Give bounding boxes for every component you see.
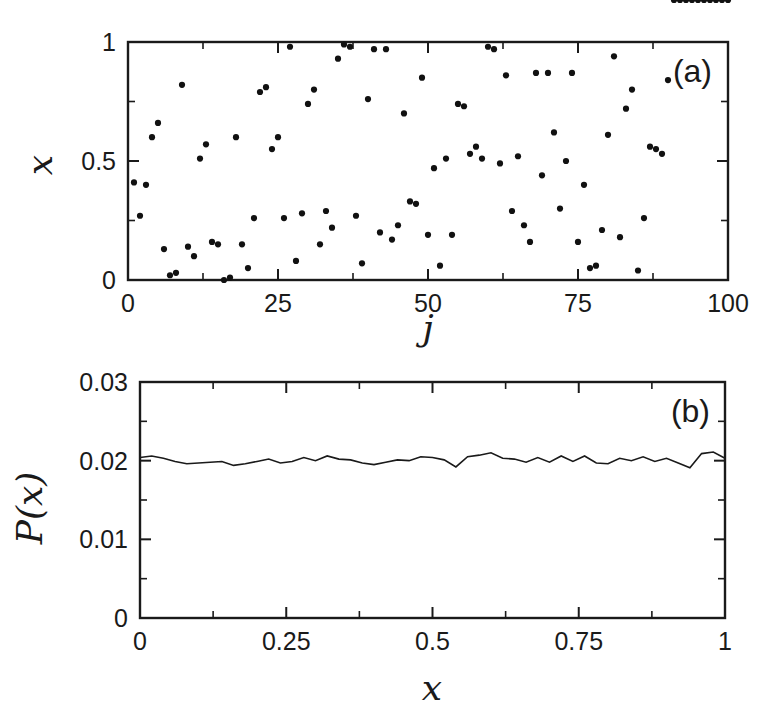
scatter-point (545, 70, 551, 76)
scatter-point (719, 0, 725, 3)
scatter-point (287, 44, 293, 50)
scatter-point (701, 0, 707, 3)
panel-b-xtick-label: 0 (133, 627, 147, 655)
scatter-point (713, 0, 719, 3)
panel-a-xtick-label: 25 (264, 289, 292, 317)
panel-a-label: (a) (673, 53, 712, 89)
scatter-point (227, 275, 233, 281)
scatter-point (323, 208, 329, 214)
panel-b: 00.250.50.75100.010.020.03 x P(x) (b) (0, 360, 780, 714)
scatter-point (173, 270, 179, 276)
scatter-point (521, 222, 527, 228)
scatter-point (137, 213, 143, 219)
panel-a-plot-area (128, 0, 731, 283)
scatter-point (605, 132, 611, 138)
scatter-point (251, 215, 257, 221)
scatter-point (515, 153, 521, 159)
panel-b-ytick-label: 0.03 (79, 368, 128, 396)
scatter-point (191, 253, 197, 259)
scatter-point (647, 144, 653, 150)
scatter-point (485, 44, 491, 50)
panel-a-yaxis-label: x (19, 155, 60, 175)
scatter-point (623, 106, 629, 112)
scatter-point (431, 165, 437, 171)
panel-b-xtick-label: 1 (718, 627, 732, 655)
scatter-point (401, 110, 407, 116)
scatter-point (371, 46, 377, 52)
panel-b-yaxis-label: P(x) (9, 472, 50, 546)
scatter-point (179, 82, 185, 88)
scatter-point (353, 213, 359, 219)
scatter-point (341, 41, 347, 47)
scatter-point (629, 87, 635, 93)
scatter-point (233, 134, 239, 140)
scatter-point (347, 44, 353, 50)
scatter-point (503, 72, 509, 78)
figure-root: 025507510000.51 j x (a) 00.250.50.75100.… (0, 0, 780, 714)
scatter-point (683, 0, 689, 3)
scatter-point (359, 260, 365, 266)
scatter-point (689, 0, 695, 3)
scatter-point (671, 0, 677, 3)
panel-b-canvas: 00.250.50.75100.010.020.03 x P(x) (b) (0, 360, 780, 714)
scatter-point (587, 265, 593, 271)
scatter-point (509, 208, 515, 214)
scatter-point (383, 46, 389, 52)
scatter-point (557, 206, 563, 212)
scatter-point (167, 272, 173, 278)
panel-b-data-line (140, 452, 725, 468)
scatter-point (473, 144, 479, 150)
scatter-point (455, 101, 461, 107)
scatter-point (317, 241, 323, 247)
scatter-point (407, 198, 413, 204)
scatter-point (263, 84, 269, 90)
scatter-point (395, 222, 401, 228)
panel-b-xtick-label: 0.75 (554, 627, 603, 655)
scatter-point (221, 277, 227, 283)
scatter-point (665, 77, 671, 83)
scatter-point (329, 225, 335, 231)
scatter-point (311, 87, 317, 93)
scatter-point (677, 0, 683, 3)
scatter-point (449, 232, 455, 238)
scatter-point (467, 151, 473, 157)
scatter-point (563, 158, 569, 164)
panel-a-xtick-label: 0 (121, 289, 135, 317)
panel-b-frame (140, 382, 725, 618)
scatter-point (419, 75, 425, 81)
scatter-point (527, 239, 533, 245)
panel-a-ytick-label: 1 (102, 28, 116, 56)
scatter-point (443, 156, 449, 162)
scatter-point (239, 241, 245, 247)
scatter-point (143, 182, 149, 188)
scatter-point (551, 129, 557, 135)
scatter-point (707, 0, 713, 3)
scatter-point (305, 101, 311, 107)
scatter-point (497, 160, 503, 166)
scatter-point (365, 96, 371, 102)
scatter-point (335, 56, 341, 62)
scatter-point (581, 182, 587, 188)
scatter-point (599, 227, 605, 233)
scatter-point (203, 141, 209, 147)
scatter-point (215, 241, 221, 247)
panel-a: 025507510000.51 j x (a) (0, 0, 780, 360)
panel-b-ytick-label: 0.01 (79, 525, 128, 553)
panel-b-ytick-label: 0 (114, 604, 128, 632)
scatter-point (389, 236, 395, 242)
panel-a-ytick-label: 0 (102, 266, 116, 294)
panel-b-ytick-label: 0.02 (79, 447, 128, 475)
scatter-point (131, 179, 137, 185)
scatter-point (377, 229, 383, 235)
scatter-point (245, 265, 251, 271)
scatter-point (653, 146, 659, 152)
scatter-point (725, 0, 731, 3)
scatter-point (161, 246, 167, 252)
scatter-point (257, 89, 263, 95)
scatter-point (593, 263, 599, 269)
panel-a-ytick-label: 0.5 (81, 147, 116, 175)
scatter-point (641, 215, 647, 221)
scatter-point (209, 239, 215, 245)
scatter-point (269, 146, 275, 152)
panel-b-xtick-label: 0.5 (415, 627, 450, 655)
